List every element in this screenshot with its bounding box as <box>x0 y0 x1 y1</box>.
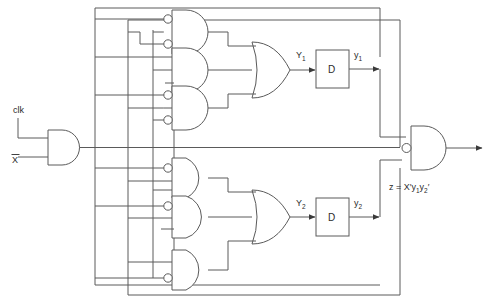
y1-label: y1 <box>354 50 363 62</box>
x-label: X <box>12 155 18 165</box>
d-flipflop-2: D <box>316 198 349 236</box>
and4-out <box>208 178 228 192</box>
and1-in-b <box>128 32 164 44</box>
Y1-label: Y1 <box>296 50 306 62</box>
and6-out <box>208 241 228 270</box>
and-gate-6-bubble <box>164 274 172 282</box>
d-flipflop-1-label: D <box>328 64 335 75</box>
and-gate-1-bubble-b <box>164 40 172 48</box>
d-flipflop-1: D <box>316 50 349 88</box>
clk-input-wire <box>18 118 48 138</box>
d-flipflop-2-label: D <box>328 212 335 223</box>
y1-to-output-and <box>380 69 406 137</box>
and-gate-3-bubble-b <box>164 116 172 124</box>
and-gate-1 <box>164 10 208 54</box>
circuit-diagram-canvas: clk X <box>0 0 492 308</box>
circuit-schematic-svg: clk X <box>0 0 492 308</box>
and3-out <box>208 94 228 108</box>
clk-label: clk <box>13 105 24 115</box>
and-gate-5-bubble <box>164 202 172 210</box>
y2-label: y2 <box>354 198 363 210</box>
and-gate-3-bubble-a <box>164 91 172 99</box>
and-gate-4 <box>164 158 199 198</box>
and-gate-1-bubble-a <box>164 15 172 23</box>
and-gate-4-bubble <box>164 164 172 172</box>
output-and-gate <box>402 126 446 170</box>
output-equation-label: z = X′y1y2′ <box>389 182 430 194</box>
Y2-label: Y2 <box>296 198 306 210</box>
and1-out <box>208 32 228 46</box>
and-gate-2 <box>172 48 208 92</box>
and-gate-5 <box>164 196 202 238</box>
clk-x-and-gate <box>48 130 80 165</box>
output-and-gate-bubble <box>402 144 411 153</box>
and-gate-6 <box>164 250 199 290</box>
internal-vertical-bus-lines <box>153 30 174 278</box>
